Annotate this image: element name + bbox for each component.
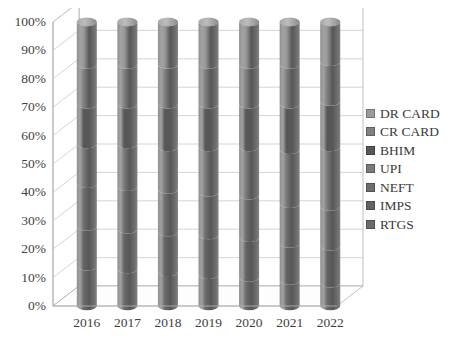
legend-item-bhim[interactable]: BHIM — [366, 141, 453, 160]
y-tick-label: 10% — [0, 271, 46, 285]
cylinder-segment-bhim — [117, 104, 137, 148]
cylinder-segment-bhim — [280, 104, 300, 154]
cylinder-segment-neft — [280, 204, 300, 248]
cylinder-segment-imps — [77, 226, 97, 270]
cylinder-segment-dr-card — [77, 22, 97, 69]
cylinder-segment-rtgs — [239, 278, 259, 311]
cylinder-segment-upi — [158, 147, 178, 194]
y-tick-label: 30% — [0, 214, 46, 228]
y-tick-label: 60% — [0, 129, 46, 143]
cylinder-segment-dr-card — [239, 22, 259, 69]
cylinder-top-cap — [77, 18, 97, 26]
cylinder-segment-cr-card — [320, 62, 340, 106]
cylinder-segment-upi — [280, 150, 300, 208]
legend-item-imps[interactable]: IMPS — [366, 197, 453, 216]
legend-item-neft[interactable]: NEFT — [366, 178, 453, 197]
cylinder-segment-imps — [280, 244, 300, 285]
bar-2022 — [320, 18, 340, 310]
bar-2018 — [158, 18, 178, 310]
y-tick-label: 20% — [0, 242, 46, 256]
cylinder-segment-imps — [239, 238, 259, 282]
legend-item-rtgs[interactable]: RTGS — [366, 215, 453, 234]
cylinder-segment-bhim — [199, 104, 219, 151]
x-axis: 2016201720182019202020212022 — [49, 316, 365, 340]
cylinder-segment-dr-card — [320, 22, 340, 66]
cylinder-top-cap — [320, 18, 340, 26]
cylinder-segment-dr-card — [199, 22, 219, 69]
cylinder-segment-imps — [199, 235, 219, 279]
cylinder-segment-rtgs — [117, 269, 137, 310]
cylinder-segment-rtgs — [158, 272, 178, 310]
bar-2016 — [77, 18, 97, 310]
x-tick-label-2022: 2022 — [304, 316, 356, 330]
legend-item-label: CR CARD — [380, 125, 439, 139]
cylinder-segment-neft — [320, 207, 340, 251]
cylinder-segment-cr-card — [158, 65, 178, 109]
legend-item-label: RTGS — [380, 218, 414, 232]
legend-swatch-icon — [366, 146, 375, 155]
cylinder-segment-cr-card — [239, 65, 259, 109]
cylinder-segment-bhim — [320, 102, 340, 152]
cylinder-segment-neft — [117, 187, 137, 234]
legend-item-upi[interactable]: UPI — [366, 160, 453, 179]
cylinder-segment-bhim — [239, 104, 259, 151]
cylinder-segment-cr-card — [77, 65, 97, 109]
cylinder-segment-imps — [320, 246, 340, 287]
cylinder-segment-rtgs — [199, 275, 219, 310]
cylinder-segment-cr-card — [280, 65, 300, 109]
cylinder-segment-upi — [239, 147, 259, 199]
cylinder-segment-neft — [77, 184, 97, 231]
cylinder-top-cap — [199, 18, 219, 26]
legend-swatch-icon — [366, 183, 375, 192]
y-axis: 0%10%20%30%40%50%60%70%80%90%100% — [0, 0, 46, 343]
plot-area — [49, 8, 365, 314]
cylinder-segment-bhim — [77, 104, 97, 148]
cylinder-segment-bhim — [158, 104, 178, 151]
cylinder-segment-dr-card — [280, 22, 300, 69]
cylinder-segment-rtgs — [77, 266, 97, 310]
legend-item-cr-card[interactable]: CR CARD — [366, 123, 453, 142]
y-tick-label: 90% — [0, 43, 46, 57]
side-wall — [53, 8, 79, 306]
cylinder-segment-upi — [77, 144, 97, 188]
y-tick-label: 80% — [0, 72, 46, 86]
cylinder-top-cap — [117, 18, 137, 26]
cylinder-segment-upi — [117, 144, 137, 191]
cylinder-segment-neft — [239, 195, 259, 242]
plot-scene — [49, 8, 365, 314]
cylinder-top-cap — [280, 18, 300, 26]
bar-2020 — [239, 18, 259, 310]
cylinder-top-cap — [239, 18, 259, 26]
y-tick-label: 100% — [0, 15, 46, 29]
legend-item-label: DR CARD — [380, 107, 440, 121]
legend-swatch-icon — [366, 164, 375, 173]
cylinder-top-cap — [158, 18, 178, 26]
cylinder-segment-cr-card — [117, 65, 137, 109]
bar-2019 — [199, 18, 219, 310]
legend-item-dr-card[interactable]: DR CARD — [366, 104, 453, 123]
cylinder-segment-imps — [117, 229, 137, 273]
legend-swatch-icon — [366, 127, 375, 136]
bar-2021 — [280, 18, 300, 310]
cylinder-segment-neft — [199, 192, 219, 239]
legend-item-label: UPI — [380, 162, 402, 176]
legend-item-label: BHIM — [380, 144, 415, 158]
legend-swatch-icon — [366, 109, 375, 118]
cylinder-segment-upi — [320, 147, 340, 211]
chart-container: 0%10%20%30%40%50%60%70%80%90%100% 201620… — [0, 0, 453, 343]
legend-swatch-icon — [366, 201, 375, 210]
cylinder-segment-upi — [199, 147, 219, 197]
y-tick-label: 40% — [0, 185, 46, 199]
chart-legend: DR CARDCR CARDBHIMUPINEFTIMPSRTGS — [366, 104, 453, 234]
y-tick-label: 70% — [0, 100, 46, 114]
legend-item-label: NEFT — [380, 181, 414, 195]
legend-swatch-icon — [366, 220, 375, 229]
cylinder-segment-dr-card — [158, 22, 178, 69]
y-tick-label: 0% — [0, 299, 46, 313]
bar-2017 — [117, 18, 137, 310]
cylinder-segment-imps — [158, 232, 178, 276]
cylinder-segment-dr-card — [117, 22, 137, 69]
cylinder-segment-cr-card — [199, 65, 219, 109]
cylinder-segment-neft — [158, 190, 178, 237]
legend-item-label: IMPS — [380, 199, 412, 213]
